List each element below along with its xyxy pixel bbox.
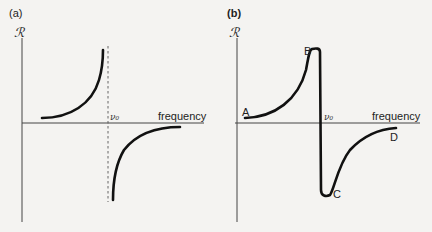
panel-b-response-curve: [245, 48, 396, 195]
panel-b-point-d-label: D: [390, 131, 398, 143]
panel-a-curve-below: [42, 50, 103, 118]
panel-b-x-axis-label: frequency: [372, 110, 421, 122]
panel-a-y-axis-label: ℛ: [14, 25, 26, 40]
panel-b-nu0-label: ν₀: [324, 112, 333, 122]
panel-b-label: (b): [227, 7, 241, 19]
panel-a-label: (a): [9, 7, 22, 19]
panel-a-x-axis-label: frequency: [158, 110, 207, 122]
panel-a-curve-above: [113, 127, 180, 200]
panel-b-point-a-label: A: [242, 106, 250, 118]
panel-b-point-c-label: C: [333, 188, 341, 200]
panel-b-y-axis-label: ℛ: [229, 25, 241, 40]
panel-b-point-b-label: B: [304, 45, 311, 57]
panel-a-nu0-label: ν₀: [110, 112, 119, 122]
panel-b: (b) ℛ ν₀ frequency A B C D: [227, 7, 421, 222]
panel-a: (a) ℛ ν₀ frequency: [9, 7, 207, 222]
figure: (a) ℛ ν₀ frequency (b) ℛ ν₀ frequency A …: [0, 0, 432, 232]
